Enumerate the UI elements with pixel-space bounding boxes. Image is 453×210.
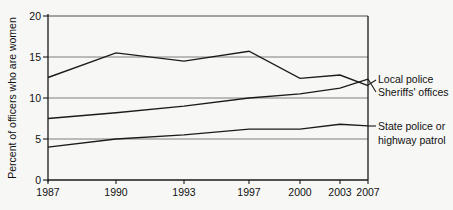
y-tick-label-0: 0	[35, 174, 41, 186]
x-tick-label-2003: 2003	[328, 186, 352, 198]
x-tick-label-1997: 1997	[237, 186, 261, 198]
x-tick-label-1987: 1987	[36, 186, 60, 198]
y-tick-label-15: 15	[29, 51, 41, 63]
series-label-state-police-line1: State police or	[378, 120, 446, 132]
x-tick-label-1990: 1990	[104, 186, 128, 198]
series-label-local-police: Local police	[378, 73, 434, 85]
y-tick-label-5: 5	[35, 133, 41, 145]
y-axis-ticks	[43, 16, 48, 180]
x-tick-label-2007: 2007	[356, 186, 380, 198]
series-label-sheriffs-offices: Sheriffs' offices	[378, 86, 449, 98]
line-chart: 20 15 10 5 0 1987 1990 1993 1997 2000 20…	[0, 0, 453, 210]
x-tick-label-1993: 1993	[172, 186, 196, 198]
chart-figure: 20 15 10 5 0 1987 1990 1993 1997 2000 20…	[0, 0, 453, 210]
y-tick-label-10: 10	[29, 92, 41, 104]
x-tick-label-2000: 2000	[288, 186, 312, 198]
series-label-state-police-line2: highway patrol	[378, 134, 446, 146]
y-axis-title: Percent of officers who are women	[6, 17, 18, 179]
y-tick-label-20: 20	[29, 10, 41, 22]
